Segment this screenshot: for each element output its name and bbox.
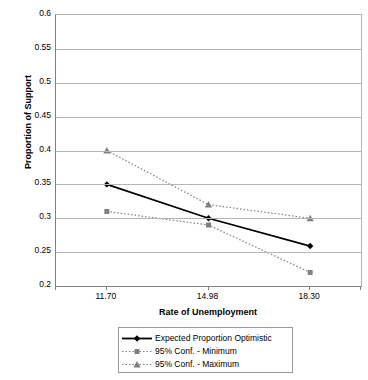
gridline xyxy=(56,184,361,185)
legend-item[interactable]: Expected Proportion Optimistic xyxy=(119,331,292,344)
x-axis-tick-mark xyxy=(106,286,107,290)
x-axis-tick-mark xyxy=(208,286,209,290)
chart-legend: Expected Proportion Optimistic95% Conf. … xyxy=(118,327,293,373)
legend-label: 95% Conf. - Maximum xyxy=(155,359,239,369)
y-axis-tick-label: 0.35 xyxy=(21,178,51,187)
y-axis-tick-label: 0.3 xyxy=(21,212,51,221)
gridline xyxy=(56,49,361,50)
y-axis-tick-label: 0.2 xyxy=(21,280,51,289)
x-axis-tick-mark xyxy=(360,286,361,290)
legend-key-triangle-icon xyxy=(119,357,155,370)
x-axis-tick-mark xyxy=(309,286,310,290)
plot-area xyxy=(55,14,362,287)
square-marker xyxy=(135,349,140,354)
triangle-marker xyxy=(205,201,212,207)
legend-key-diamond-icon xyxy=(119,331,155,344)
y-axis-tick-label: 0.6 xyxy=(21,9,51,18)
diamond-marker xyxy=(134,335,140,341)
chart-container: Proportion of Support 0.60.550.50.450.40… xyxy=(0,0,368,380)
diamond-marker xyxy=(307,243,313,249)
legend-item[interactable]: 95% Conf. - Minimum xyxy=(119,344,292,357)
x-axis-tick-mark xyxy=(55,286,56,290)
x-axis-tick-label: 14.98 xyxy=(178,291,238,302)
y-axis-tick-labels: 0.60.550.50.450.40.350.30.250.2 xyxy=(18,0,51,300)
x-axis-title: Rate of Unemployment xyxy=(55,307,361,317)
y-axis-tick-label: 0.5 xyxy=(21,77,51,86)
legend-item[interactable]: 95% Conf. - Maximum xyxy=(119,357,292,370)
square-marker xyxy=(104,209,109,214)
y-axis-tick-label: 0.45 xyxy=(21,111,51,120)
legend-label: Expected Proportion Optimistic xyxy=(155,333,272,343)
y-axis-tick-label: 0.55 xyxy=(21,43,51,52)
y-axis-tick-label: 0.25 xyxy=(21,246,51,255)
y-axis-tick-label: 0.4 xyxy=(21,145,51,154)
gridline xyxy=(56,218,361,219)
x-axis-tick-labels: 11.7014.9818.30 xyxy=(55,291,361,305)
square-marker xyxy=(308,270,313,275)
gridline xyxy=(56,252,361,253)
gridline xyxy=(56,117,361,118)
square-marker xyxy=(206,223,211,228)
x-axis-tick-label: 18.30 xyxy=(279,291,339,302)
legend-key-square-icon xyxy=(119,344,155,357)
x-axis-tick-label: 11.70 xyxy=(76,291,136,302)
gridline xyxy=(56,151,361,152)
gridline xyxy=(56,83,361,84)
legend-label: 95% Conf. - Minimum xyxy=(155,346,237,356)
